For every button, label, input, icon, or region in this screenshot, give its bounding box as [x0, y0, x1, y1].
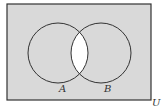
universe-label: U [152, 97, 161, 108]
set-b-label: B [103, 83, 111, 94]
venn-diagram: A B U [0, 0, 165, 111]
set-a-label: A [58, 83, 66, 94]
